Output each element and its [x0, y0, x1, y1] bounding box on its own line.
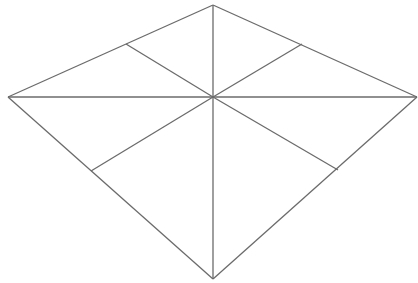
edge-center-lower_left_mid — [91, 97, 213, 171]
edge-center-upper_left_mid — [126, 44, 213, 97]
edge-center-lower_right_mid — [213, 97, 338, 170]
edge-right-bottom — [213, 97, 417, 279]
edge-left-bottom — [8, 97, 213, 279]
edge-center-upper_right_mid — [213, 44, 302, 97]
edge-top-left — [8, 5, 213, 97]
edge-top-right — [213, 5, 417, 97]
diagram-canvas — [0, 0, 418, 283]
